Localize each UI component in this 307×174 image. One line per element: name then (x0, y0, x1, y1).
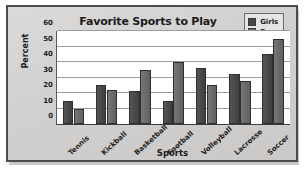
bar-girls-volleyball (196, 68, 207, 124)
bar-groups (57, 31, 290, 124)
legend-swatch-girls (248, 18, 256, 26)
bar-girls-tennis (63, 101, 74, 124)
y-axis-tick-label: 60 (43, 19, 53, 27)
legend-item-girls: Girls (248, 17, 279, 26)
bar-boys-football (173, 62, 184, 124)
bar-group (229, 31, 251, 124)
y-axis-title: Percent (21, 59, 30, 69)
chart-title: Favorite Sports to Play (68, 15, 228, 28)
bar-group (196, 31, 218, 124)
bar-girls-basketball (129, 91, 140, 124)
y-axis-tick-label: 20 (43, 81, 53, 89)
bar-group (163, 31, 185, 124)
bar-boys-kickball (107, 90, 118, 124)
bar-boys-tennis (74, 109, 85, 125)
legend-label-girls: Girls (260, 18, 278, 26)
bar-group (129, 31, 151, 124)
bar-girls-football (163, 101, 174, 124)
y-axis-tick-label: 40 (43, 50, 53, 58)
bar-boys-lacrosse (240, 81, 251, 124)
bar-boys-basketball (140, 70, 151, 124)
bar-boys-soccer (273, 39, 284, 124)
plot-area: 0102030405060 TennisKickballBasketballFo… (56, 31, 290, 125)
x-axis-title: Sports (56, 148, 289, 158)
bar-group (96, 31, 118, 124)
chart-figure: Favorite Sports to Play Girls Boys Perce… (0, 0, 307, 174)
bar-boys-volleyball (207, 85, 218, 124)
chart-panel: Favorite Sports to Play Girls Boys Perce… (6, 5, 298, 162)
y-axis-tick-label: 50 (43, 35, 53, 43)
y-axis-tick-label: 0 (48, 112, 53, 120)
bar-girls-lacrosse (229, 74, 240, 124)
bar-girls-soccer (262, 54, 273, 124)
bar-group (262, 31, 284, 124)
y-axis-tick-label: 30 (43, 66, 53, 74)
bar-group (63, 31, 85, 124)
y-axis-tick-label: 10 (43, 97, 53, 105)
bar-girls-kickball (96, 85, 107, 124)
